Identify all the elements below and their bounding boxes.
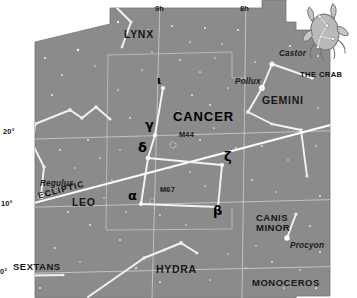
star-label-castor: Castor bbox=[279, 50, 306, 58]
bayer-label-gamma: γ bbox=[145, 118, 154, 131]
star-alpha-cancri bbox=[139, 202, 143, 206]
bayer-label-zeta: ζ bbox=[224, 150, 232, 163]
dec-label-0: 0° bbox=[0, 268, 7, 276]
constellation-label-monoceros: MONOCEROS bbox=[252, 278, 320, 288]
star-castor bbox=[269, 61, 274, 66]
bayer-label-alpha: α bbox=[128, 189, 137, 202]
hour-label-9h: 9h bbox=[155, 5, 164, 13]
dec-label-20: 20° bbox=[3, 128, 15, 136]
dso-label-m67: M67 bbox=[160, 186, 175, 194]
dso-label-m44: M44 bbox=[179, 131, 194, 139]
star-procyon bbox=[284, 235, 289, 240]
star-delta-cancri bbox=[146, 156, 151, 161]
star-label-pollux: Pollux bbox=[235, 78, 261, 86]
bayer-label-iota: ι bbox=[157, 75, 162, 86]
sky-background bbox=[35, 0, 330, 298]
constellation-label-leo: LEO bbox=[72, 197, 96, 208]
star-chart-figure: THE CRAB 9h 8h 20° 10° 0° ECLIPTIC LYNX … bbox=[0, 0, 357, 298]
hour-label-8h: 8h bbox=[240, 5, 249, 13]
constellation-label-gemini: GEMINI bbox=[262, 95, 304, 106]
dec-label-10: 10° bbox=[1, 200, 13, 208]
constellation-label-minor: MINOR bbox=[256, 223, 290, 233]
star-label-procyon: Procyon bbox=[290, 242, 324, 250]
bayer-label-beta: β bbox=[213, 204, 223, 217]
sextans-line bbox=[14, 275, 63, 276]
star-label-regulus: Regulus bbox=[40, 180, 74, 188]
constellation-label-sextans: SEXTANS bbox=[13, 262, 61, 272]
constellation-label-hydra: HYDRA bbox=[156, 264, 197, 275]
constellation-label-lynx: LYNX bbox=[124, 29, 154, 40]
crab-caption: THE CRAB bbox=[300, 70, 342, 79]
constellation-label-cancer: CANCER bbox=[173, 110, 234, 123]
star-iota-cancri bbox=[161, 86, 165, 90]
star-gamma-cancri bbox=[153, 133, 157, 137]
crab-illustration bbox=[300, 2, 350, 64]
bayer-label-delta: δ bbox=[138, 141, 147, 154]
